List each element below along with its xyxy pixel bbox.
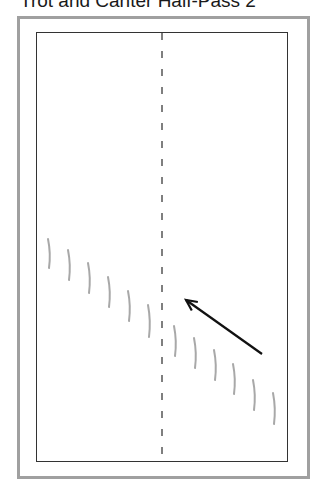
hoof-print (128, 291, 130, 321)
hoof-print (253, 380, 255, 410)
hoof-print (214, 350, 216, 380)
hoof-print (88, 263, 90, 293)
direction-arrow-icon (186, 300, 262, 354)
hoof-print (233, 364, 235, 394)
hoof-print (148, 305, 150, 337)
hoof-print (273, 393, 275, 424)
hoof-print (48, 239, 50, 268)
hoof-print (108, 277, 110, 307)
hoof-print (194, 338, 196, 368)
diagram-overlay (0, 0, 323, 490)
hoof-print (174, 326, 176, 356)
hoof-print (68, 250, 70, 280)
